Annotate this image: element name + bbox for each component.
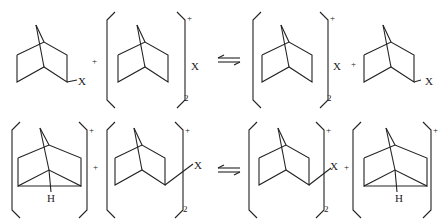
substituent-x: X — [194, 160, 202, 171]
plus-sign: + — [92, 57, 97, 66]
counterion-x: X — [191, 61, 199, 72]
charge-plus: + — [187, 14, 192, 23]
subscript-2: 2 — [324, 205, 329, 214]
plus-sign: + — [93, 163, 98, 172]
equilibrium-arrow-bottom — [218, 165, 240, 175]
substituent-x: X — [78, 76, 86, 87]
charge-plus: + — [330, 14, 335, 23]
top-bracket-right — [253, 12, 328, 108]
top-neutral-left — [17, 25, 77, 82]
top-bracket-left — [107, 12, 185, 108]
substituent-x: X — [330, 161, 338, 172]
reaction-diagram — [0, 0, 447, 223]
bottom-bracket-4 — [353, 122, 431, 218]
subscript-2: 2 — [184, 94, 189, 103]
charge-plus: + — [185, 126, 190, 135]
bridging-h: H — [395, 193, 403, 204]
charge-plus: + — [326, 126, 331, 135]
plus-sign: + — [351, 60, 356, 69]
substituent-x: X — [425, 76, 433, 87]
equilibrium-arrow-top — [218, 55, 240, 65]
subscript-2: 2 — [327, 94, 332, 103]
bottom-bracket-3 — [249, 122, 331, 218]
charge-plus: + — [433, 126, 438, 135]
plus-sign: + — [344, 163, 349, 172]
top-neutral-right — [364, 25, 421, 82]
bridging-h: H — [47, 193, 55, 204]
subscript-2: 2 — [183, 205, 188, 214]
charge-plus: + — [89, 126, 94, 135]
counterion-x: X — [333, 61, 341, 72]
bottom-bracket-2 — [107, 122, 193, 218]
